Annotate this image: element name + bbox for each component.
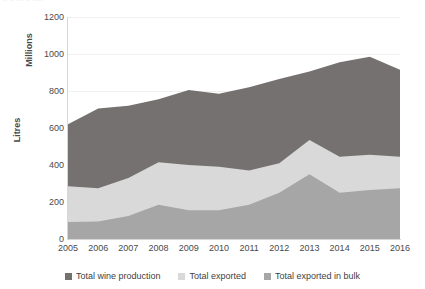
legend-item[interactable]: Total exported	[178, 271, 246, 281]
legend-item[interactable]: Total exported in bulk	[264, 271, 360, 281]
y-tick-label: 800	[24, 87, 64, 96]
area-chart: ∙∙ ∙∙ ∙∙∙ ∙∙ ∙∙∙∙ Millions Litres 020040…	[0, 0, 425, 289]
chart-legend: Total wine productionTotal exportedTotal…	[0, 266, 425, 286]
legend-label: Total wine production	[76, 271, 161, 281]
x-axis-tick-labels: 2005200620072008200920102011201220132014…	[68, 243, 400, 257]
legend-label: Total exported in bulk	[275, 271, 360, 281]
y-tick-label: 1000	[24, 50, 64, 59]
legend-swatch-icon	[178, 273, 185, 280]
legend-item[interactable]: Total wine production	[65, 271, 161, 281]
y-tick-label: 400	[24, 161, 64, 170]
x-axis-line	[68, 239, 401, 240]
y-tick-label: 200	[24, 198, 64, 207]
y-tick-label: 600	[24, 124, 64, 133]
plot-area	[68, 17, 400, 239]
legend-swatch-icon	[65, 273, 72, 280]
y-tick-label: 1200	[24, 13, 64, 22]
area-series-group	[68, 17, 400, 239]
y-axis-tick-labels: 020040060080010001200	[20, 0, 64, 260]
legend-swatch-icon	[264, 273, 271, 280]
x-tick-label: 2016	[380, 243, 420, 254]
legend-label: Total exported	[189, 271, 246, 281]
